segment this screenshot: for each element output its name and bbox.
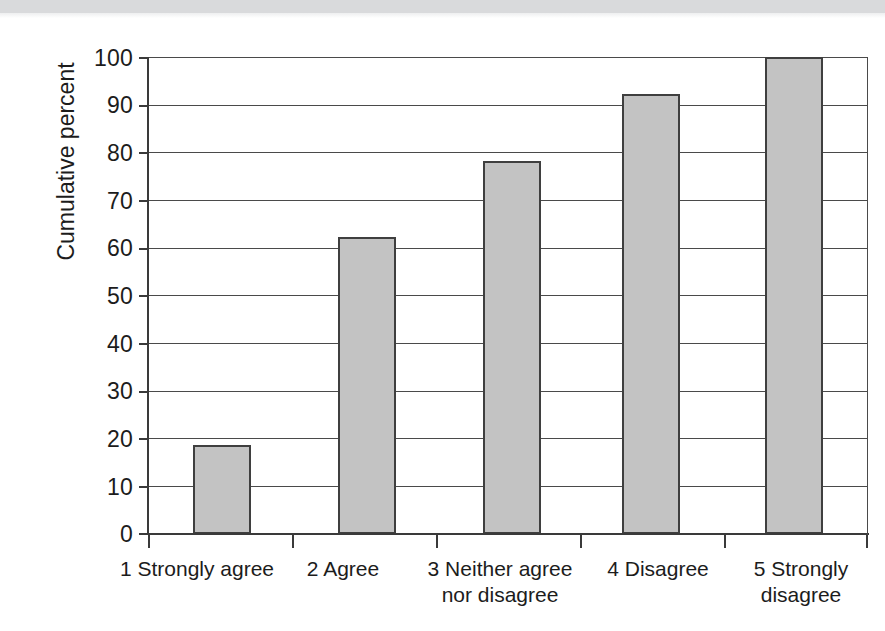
x-category-label-1: 1 Strongly agree bbox=[112, 556, 282, 582]
x-tick-mark-4 bbox=[724, 535, 726, 548]
x-category-label-4-line-1: 4 Disagree bbox=[583, 556, 733, 582]
y-tick-label-80: 80 bbox=[13, 142, 133, 165]
bar-5-strongly-disagree bbox=[765, 57, 823, 534]
x-category-label-3-line-2: nor disagree bbox=[400, 582, 600, 608]
x-axis-line bbox=[148, 533, 869, 535]
gridline-90 bbox=[148, 105, 868, 106]
bar-4-disagree bbox=[622, 94, 680, 534]
x-category-label-5-line-2: disagree bbox=[726, 582, 876, 608]
gridline-80 bbox=[148, 152, 868, 153]
plot-area bbox=[148, 57, 868, 534]
x-category-label-2: 2 Agree bbox=[281, 556, 405, 582]
x-category-label-4: 4 Disagree bbox=[583, 556, 733, 582]
y-tick-label-20: 20 bbox=[13, 428, 133, 451]
y-tick-label-90: 90 bbox=[13, 94, 133, 117]
bar-1-strongly-agree bbox=[193, 445, 251, 534]
y-tick-label-60: 60 bbox=[13, 237, 133, 260]
x-category-label-5: 5 Strongly disagree bbox=[726, 556, 876, 608]
plot-frame-right-edge bbox=[867, 57, 868, 535]
cumulative-percent-bar-chart: Cumulative percent 100 90 80 70 60 50 40… bbox=[0, 0, 885, 631]
x-category-label-3: 3 Neither agree nor disagree bbox=[400, 556, 600, 608]
bar-3-neither-agree-nor-disagree bbox=[483, 161, 541, 534]
x-tick-mark-3 bbox=[580, 535, 582, 548]
y-tick-label-30: 30 bbox=[13, 380, 133, 403]
bar-2-agree bbox=[338, 237, 396, 534]
y-tick-label-50: 50 bbox=[13, 285, 133, 308]
y-axis-line bbox=[147, 57, 149, 535]
x-category-label-3-line-1: 3 Neither agree bbox=[400, 556, 600, 582]
y-tick-label-40: 40 bbox=[13, 333, 133, 356]
x-category-label-2-line-1: 2 Agree bbox=[281, 556, 405, 582]
x-tick-mark-0 bbox=[148, 535, 150, 548]
x-category-label-5-line-1: 5 Strongly bbox=[726, 556, 876, 582]
y-tick-label-70: 70 bbox=[13, 190, 133, 213]
y-tick-label-0: 0 bbox=[13, 523, 133, 546]
y-tick-label-100: 100 bbox=[13, 47, 133, 70]
x-tick-mark-2 bbox=[436, 535, 438, 548]
x-tick-mark-1 bbox=[292, 535, 294, 548]
x-tick-mark-5 bbox=[866, 535, 868, 548]
y-tick-label-10: 10 bbox=[13, 476, 133, 499]
x-category-label-1-line-1: 1 Strongly agree bbox=[112, 556, 282, 582]
gridline-100 bbox=[148, 57, 868, 58]
